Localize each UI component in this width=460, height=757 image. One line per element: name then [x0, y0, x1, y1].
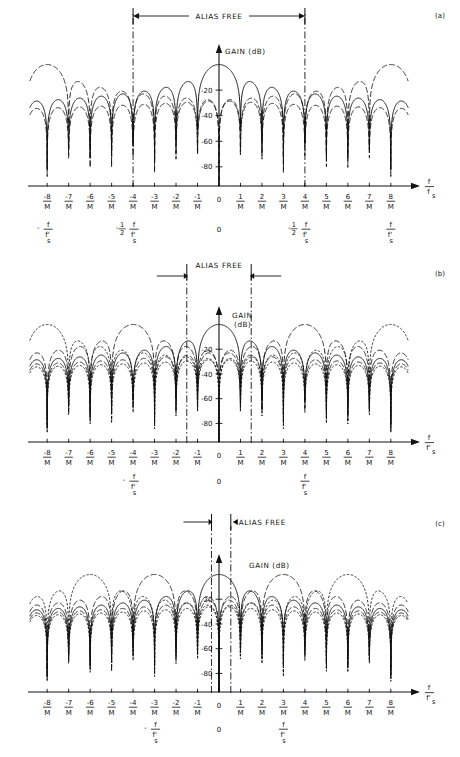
x-tick-numerator: -5 [108, 449, 115, 457]
alias-free-annotation: ALIAS FREE [157, 261, 281, 280]
panel-a: -8M-7M-6M-5M-4M-3M-2M-1M1M2M3M4M5M6M7M8M… [0, 0, 460, 252]
x-tick-denominator: M [388, 459, 394, 467]
x-tick-denominator: M [366, 203, 372, 211]
x-tick-denominator: M [237, 203, 243, 211]
x-tick-denominator: M [237, 709, 243, 717]
aux-axis-label-numerator: f [390, 221, 393, 229]
x-tick-denominator: M [66, 709, 72, 717]
x-tick-denominator: M [259, 709, 265, 717]
x-tick-denominator: M [194, 459, 200, 467]
x-tick-numerator: -4 [130, 193, 138, 201]
x-tick-denominator: M [194, 203, 200, 211]
aux-axis-half-denominator: 2 [120, 229, 124, 237]
aux-axis-label-numerator: f [47, 221, 50, 229]
alias-free-annotation: ALIAS FREE [183, 514, 285, 530]
aux-axis-label-subscript: s [47, 237, 51, 245]
x-tick-denominator: M [323, 203, 329, 211]
x-tick-denominator: M [237, 459, 243, 467]
x-tick-numerator: -7 [65, 193, 72, 201]
x-tick-numerator: -3 [151, 193, 158, 201]
alias-free-label: ALIAS FREE [195, 261, 242, 270]
aux-axis-half-numerator: 1 [120, 221, 124, 229]
aux-axis-label-numerator: f [133, 221, 136, 229]
y-axis-arrowhead [216, 306, 222, 315]
panel-letter-a: (a) [435, 12, 445, 20]
aux-axis-label-numerator: f [133, 473, 136, 481]
y-tick-label: -60 [201, 645, 212, 653]
x-tick-numerator: -7 [65, 449, 72, 457]
x-tick-denominator: M [66, 459, 72, 467]
y-axis-arrowhead [216, 44, 222, 53]
x-tick-numerator: 1 [238, 699, 242, 707]
aux-axis-label-subscript: s [390, 237, 394, 245]
x-axis-label-subscript: s [432, 448, 436, 456]
x-tick-denominator: M [302, 203, 308, 211]
chart-c: -8M-7M-6M-5M-4M-3M-2M-1M1M2M3M4M5M6M7M8M… [0, 500, 460, 757]
x-tick-denominator: M [366, 709, 372, 717]
x-tick-zero: 0 [217, 452, 221, 460]
x-tick-numerator: 5 [324, 699, 328, 707]
alias-free-label: ALIAS FREE [195, 12, 242, 21]
x-tick-numerator: 4 [303, 449, 308, 457]
x-tick-numerator: 7 [367, 193, 371, 201]
x-tick-numerator: 4 [303, 699, 308, 707]
x-tick-numerator: 2 [260, 449, 264, 457]
x-tick-denominator: M [345, 709, 351, 717]
y-tick-label: -60 [201, 395, 212, 403]
x-tick-denominator: M [152, 459, 158, 467]
x-tick-numerator: -5 [108, 699, 115, 707]
x-tick-zero: 0 [217, 196, 221, 204]
x-tick-denominator: M [87, 459, 93, 467]
x-tick-numerator: -5 [108, 193, 115, 201]
x-tick-denominator: M [152, 203, 158, 211]
x-tick-denominator: M [259, 203, 265, 211]
x-axis-label-numerator: f [428, 434, 431, 442]
x-tick-numerator: 1 [238, 193, 242, 201]
x-tick-numerator: -1 [194, 193, 201, 201]
x-tick-numerator: 3 [281, 449, 285, 457]
x-axis-label: ff's [425, 434, 436, 456]
x-tick-numerator: 6 [346, 193, 351, 201]
x-tick-numerator: 7 [367, 449, 371, 457]
x-tick-denominator: M [173, 459, 179, 467]
x-tick-denominator: M [345, 203, 351, 211]
aux-axis-label: 0 [217, 226, 221, 234]
x-tick-denominator: M [388, 709, 394, 717]
x-axis-label: ffs [425, 178, 436, 200]
x-axis-arrowhead [411, 183, 420, 189]
x-tick-numerator: -2 [173, 193, 180, 201]
aux-axis-label-zero: 0 [217, 478, 221, 486]
x-axis-label-denominator: f' [426, 444, 430, 452]
x-tick-numerator: -2 [173, 449, 180, 457]
x-tick-numerator: -4 [130, 449, 138, 457]
y-tick-label: -20 [201, 596, 212, 604]
x-axis-label-denominator: f' [426, 694, 430, 702]
chart-a: -8M-7M-6M-5M-4M-3M-2M-1M1M2M3M4M5M6M7M8M… [0, 0, 460, 252]
x-tick-denominator: M [109, 203, 115, 211]
y-tick-label: -80 [201, 163, 212, 171]
x-tick-denominator: M [109, 709, 115, 717]
y-tick-label: -20 [201, 346, 212, 354]
x-tick-numerator: 8 [389, 449, 393, 457]
x-tick-numerator: 2 [260, 699, 264, 707]
x-tick-denominator: M [302, 459, 308, 467]
x-tick-numerator: 5 [324, 449, 328, 457]
x-tick-numerator: 2 [260, 193, 264, 201]
x-tick-numerator: 6 [346, 449, 351, 457]
aux-axis-half-denominator: 2 [292, 229, 296, 237]
aux-axis-label: -ff's [123, 473, 139, 497]
x-tick-denominator: M [280, 709, 286, 717]
x-tick-denominator: M [173, 203, 179, 211]
x-tick-numerator: -6 [87, 193, 95, 201]
x-tick-numerator: 8 [389, 699, 393, 707]
x-tick-numerator: 1 [238, 449, 242, 457]
x-tick-denominator: M [130, 203, 136, 211]
x-tick-denominator: M [366, 459, 372, 467]
x-tick-numerator: -4 [130, 699, 138, 707]
x-tick-denominator: M [44, 459, 50, 467]
aux-axis-label-numerator: f [282, 721, 285, 729]
x-axis-label-denominator: f [427, 188, 430, 196]
x-tick-denominator: M [109, 459, 115, 467]
aux-axis-label: 0 [217, 726, 221, 734]
aux-axis-label-subscript: s [304, 489, 308, 497]
